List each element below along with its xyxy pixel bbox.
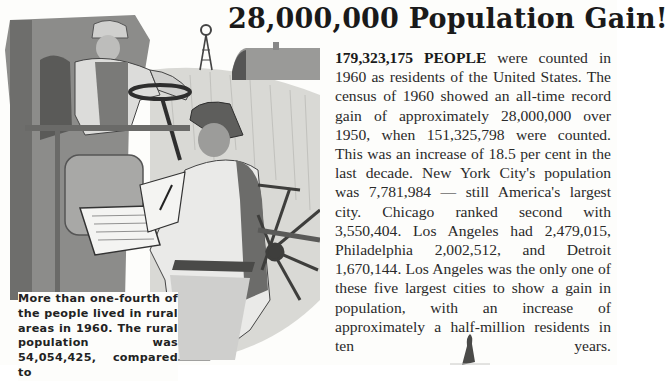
barn-icon — [232, 42, 320, 80]
bottom-figure-fragment — [450, 332, 490, 365]
body-lead: 179,323,175 PEOPLE — [335, 49, 486, 66]
body-text: were counted in 1960 as residents of the… — [335, 49, 611, 354]
body-paragraph: 179,323,175 PEOPLE were counted in 1960 … — [335, 48, 611, 355]
windmill-icon — [200, 25, 212, 70]
illustration-caption: More than one-fourth of the people lived… — [18, 292, 178, 381]
headline: 28,000,000 Population Gain! — [228, 2, 668, 36]
